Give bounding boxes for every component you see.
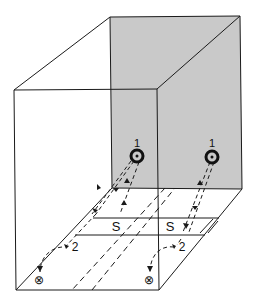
point-left-label: 2	[72, 240, 79, 254]
arrow-icon	[147, 266, 153, 272]
point-right-label: 2	[179, 240, 186, 254]
arrow-icon	[97, 184, 101, 190]
strip-right-label: S	[166, 219, 175, 234]
sink-right-icon: ⊗	[144, 273, 154, 287]
arrow-icon	[183, 223, 189, 229]
arrow-icon	[113, 188, 119, 192]
s-strip	[75, 218, 219, 235]
strip-left-label: S	[112, 219, 121, 234]
source-left-label: 1	[134, 137, 140, 149]
box-diagram: 1 1 S S 2 2 ⊗ ⊗	[0, 0, 253, 302]
source-right-label: 1	[209, 137, 215, 149]
arrow-icon	[37, 266, 43, 272]
arrow-icon	[121, 200, 127, 205]
sink-left-icon: ⊗	[34, 273, 44, 287]
